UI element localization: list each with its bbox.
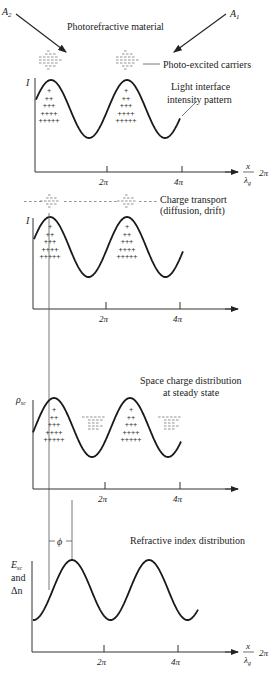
svg-text:2π: 2π bbox=[259, 648, 269, 658]
transport-label-line1: Charge transport bbox=[160, 194, 227, 205]
svg-text:x: x bbox=[245, 641, 250, 651]
beam-a2-label: A2 bbox=[1, 6, 12, 19]
positive-charges-1: ++++++++++++++++++++++++++++++ bbox=[38, 87, 136, 125]
plus-charge-row: +++++ bbox=[39, 253, 60, 261]
carriers-label: Photo-excited carriers bbox=[163, 59, 251, 70]
y-axis-label-rho: ρsc bbox=[15, 394, 26, 406]
y-axis-label-i-2: I bbox=[25, 215, 30, 226]
plus-charge-row: +++++ bbox=[116, 253, 137, 261]
pattern-label-line2: intensity pattern bbox=[167, 94, 232, 105]
pattern-label-line1: Light interface bbox=[171, 81, 231, 92]
refractive-index-curve bbox=[33, 560, 198, 620]
y-axis-label-esc: Esc and Δn bbox=[10, 559, 25, 596]
phase-label-phi: ϕ bbox=[57, 536, 62, 547]
space-charge-label-line2: at steady state bbox=[163, 387, 220, 398]
tick-label-4pi-4: 4π bbox=[171, 657, 181, 667]
beam-a2-arrow bbox=[16, 14, 66, 52]
svg-text:2π: 2π bbox=[259, 168, 269, 178]
material-label: Photorefractive material bbox=[67, 21, 164, 32]
positive-charges-2: ++++++++++++++++++++++++++++++ bbox=[39, 223, 137, 261]
refractive-label: Refractive index distribution bbox=[130, 535, 245, 546]
photorefractive-diagram: A2 A1 Photorefractive material Photo-exc… bbox=[0, 0, 277, 675]
beam-a1-label: A1 bbox=[229, 8, 240, 21]
svg-text:λg: λg bbox=[243, 655, 251, 666]
axes-2 bbox=[33, 218, 238, 309]
photo-excited-carriers bbox=[39, 51, 139, 69]
space-charge-label-line1: Space charge distribution bbox=[140, 375, 241, 386]
axes-3 bbox=[33, 400, 238, 489]
transport-label-line2: (diffusion, drift) bbox=[160, 205, 225, 217]
intensity-curve bbox=[36, 80, 180, 138]
tick-label-2pi-4: 2π bbox=[97, 657, 107, 667]
svg-text:x: x bbox=[245, 161, 250, 171]
svg-text:λg: λg bbox=[243, 175, 251, 186]
x-axis-label-4: x λg 2π bbox=[243, 641, 269, 666]
tick-label-2pi-2: 2π bbox=[99, 314, 109, 324]
panel-intensity: A2 A1 Photorefractive material Photo-exc… bbox=[1, 6, 269, 187]
tick-label-2pi-3: 2π bbox=[98, 494, 108, 504]
axes-4 bbox=[32, 561, 238, 652]
y-axis-label-i: I bbox=[25, 77, 30, 88]
svg-text:Esc: Esc bbox=[10, 559, 22, 571]
tick-label-4pi-1: 4π bbox=[174, 177, 184, 187]
positive-charges-3: ++++++++++++++++++++++++++++++ bbox=[43, 406, 141, 444]
svg-text:Δn: Δn bbox=[11, 585, 22, 596]
svg-text:and: and bbox=[11, 572, 25, 583]
tick-label-2pi-1: 2π bbox=[99, 177, 109, 187]
x-axis-label-1: x λg 2π bbox=[243, 161, 269, 186]
panel-transport: Charge transport (diffusion, drift) I 2π… bbox=[24, 194, 238, 324]
axes-1 bbox=[35, 78, 238, 172]
tick-label-4pi-3: 4π bbox=[173, 494, 183, 504]
tick-label-4pi-2: 4π bbox=[173, 314, 183, 324]
plus-charge-row: +++++ bbox=[43, 436, 64, 444]
plus-charge-row: +++++ bbox=[115, 117, 136, 125]
plus-charge-row: +++++ bbox=[120, 436, 141, 444]
transported-carriers bbox=[24, 195, 157, 207]
plus-charge-row: +++++ bbox=[38, 117, 59, 125]
beam-a1-arrow bbox=[174, 14, 226, 52]
